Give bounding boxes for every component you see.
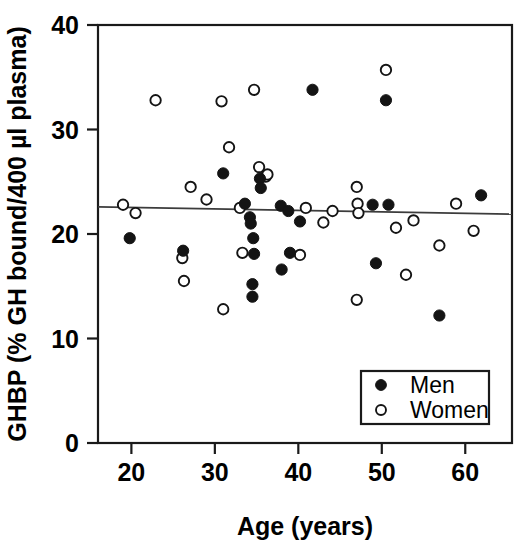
data-point-women (301, 203, 311, 213)
chart-figure: 010203040 2030405060 Age (years) GHBP (%… (0, 0, 527, 547)
data-point-men (248, 233, 259, 244)
x-tick-label: 20 (117, 458, 145, 486)
data-point-women (353, 208, 363, 218)
data-point-women (224, 142, 234, 152)
data-point-women (130, 208, 140, 218)
data-series-women (118, 65, 479, 315)
data-point-women (295, 250, 305, 260)
data-point-women (118, 200, 128, 210)
data-point-men (247, 291, 258, 302)
data-point-men (178, 245, 189, 256)
data-point-men (255, 182, 266, 193)
data-point-women (401, 270, 411, 280)
y-tick-label: 30 (51, 116, 79, 144)
x-tick-label: 50 (368, 458, 396, 486)
data-point-men (476, 190, 487, 201)
data-point-women (352, 295, 362, 305)
data-point-women (408, 215, 418, 225)
data-point-men (248, 248, 259, 259)
data-point-men (284, 247, 295, 258)
data-point-women (391, 223, 401, 233)
data-point-women (327, 206, 337, 216)
data-point-men (380, 95, 391, 106)
data-point-men (383, 199, 394, 210)
data-point-women (216, 96, 226, 106)
data-point-women (434, 240, 444, 250)
data-point-women (451, 198, 461, 208)
data-point-men (247, 279, 258, 290)
data-point-women (218, 304, 228, 314)
data-point-women (249, 85, 259, 95)
data-point-men (283, 205, 294, 216)
legend-marker-men (376, 380, 387, 391)
data-point-men (218, 168, 229, 179)
legend-marker-women (376, 405, 386, 415)
y-tick-label: 10 (51, 325, 79, 353)
y-tick-label: 40 (51, 11, 79, 39)
y-axis-ticks (87, 25, 98, 443)
data-point-women (352, 182, 362, 192)
data-point-men (367, 199, 378, 210)
data-point-women (237, 248, 247, 258)
data-point-men (124, 233, 135, 244)
data-point-men (276, 264, 287, 275)
data-point-men (307, 84, 318, 95)
data-point-men (294, 216, 305, 227)
legend: Men Women (361, 371, 489, 424)
data-point-men (239, 198, 250, 209)
data-point-men (245, 218, 256, 229)
data-point-women (179, 276, 189, 286)
data-point-women (318, 217, 328, 227)
data-point-women (381, 65, 391, 75)
x-axis-ticks (131, 443, 465, 454)
legend-label-men: Men (410, 372, 455, 398)
data-point-women (150, 95, 160, 105)
x-tick-label: 40 (284, 458, 312, 486)
x-axis-title: Age (years) (237, 512, 373, 540)
x-tick-label: 60 (451, 458, 479, 486)
x-tick-label: 30 (201, 458, 229, 486)
legend-label-women: Women (410, 397, 489, 423)
data-point-women (468, 226, 478, 236)
x-axis-tick-labels: 2030405060 (117, 458, 479, 486)
data-point-women (201, 194, 211, 204)
y-tick-label: 20 (51, 220, 79, 248)
scatter-plot: 010203040 2030405060 Age (years) GHBP (%… (0, 0, 527, 547)
data-point-men (434, 310, 445, 321)
y-tick-label: 0 (65, 429, 79, 457)
data-point-men (370, 258, 381, 269)
y-axis-tick-labels: 010203040 (51, 11, 79, 457)
data-point-women (185, 182, 195, 192)
y-axis-title: GHBP (% GH bound/400 µl plasma) (3, 26, 31, 441)
